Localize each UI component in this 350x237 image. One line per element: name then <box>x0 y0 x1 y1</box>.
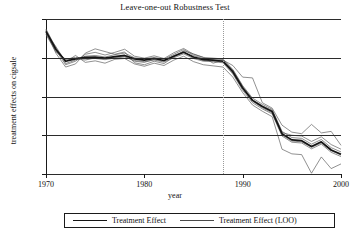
gridline-horizontal <box>46 97 341 98</box>
legend-item-treatment-effect-loo: Treatment Effect (LOO) <box>180 216 297 225</box>
chart-title: Leave-one-out Robustness Test <box>0 2 350 12</box>
gridline-horizontal <box>46 58 341 59</box>
x-axis-tick <box>144 174 145 178</box>
x-axis-tick-label: 1990 <box>235 180 251 189</box>
x-axis-tick <box>243 174 244 178</box>
series-line-loo <box>46 35 341 156</box>
legend-label: Treatment Effect <box>112 216 166 225</box>
series-line-loo <box>46 29 341 152</box>
x-axis-tick-label: 1980 <box>136 180 152 189</box>
gridline-horizontal <box>46 174 341 175</box>
y-axis-tick <box>42 58 46 59</box>
x-axis-tick-label: 2000 <box>333 180 349 189</box>
series-line-loo <box>46 31 341 146</box>
gridline-horizontal <box>46 19 341 20</box>
plot-area <box>46 19 341 174</box>
y-axis-tick <box>42 19 46 20</box>
gridline-horizontal <box>46 135 341 136</box>
x-axis-title: year <box>0 191 350 200</box>
y-axis-title: treatment effects on cigsale <box>9 26 18 176</box>
series-line-loo <box>46 30 341 149</box>
treatment-year-marker <box>223 19 224 174</box>
legend-swatch-line-icon <box>180 220 214 221</box>
legend-item-treatment-effect: Treatment Effect <box>73 216 166 225</box>
y-axis-tick <box>42 97 46 98</box>
x-axis-tick-label: 1970 <box>38 180 54 189</box>
legend-label: Treatment Effect (LOO) <box>219 216 297 225</box>
legend-swatch-line-icon <box>73 220 107 221</box>
chart-legend: Treatment Effect Treatment Effect (LOO) <box>64 213 335 228</box>
chart-figure: Leave-one-out Robustness Test treatment … <box>0 0 350 237</box>
y-axis-tick <box>42 135 46 136</box>
x-axis-tick <box>341 174 342 178</box>
x-axis-tick <box>46 174 47 178</box>
